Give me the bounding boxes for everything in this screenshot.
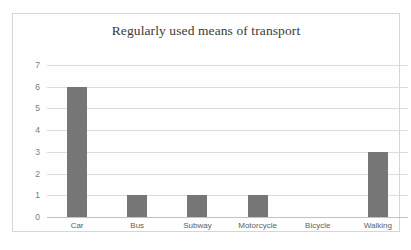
- y-axis-tick-label: 5: [35, 104, 40, 113]
- bar[interactable]: [187, 195, 207, 217]
- y-axis-tick-label: 0: [35, 213, 40, 222]
- y-axis-tick-label: 3: [35, 148, 40, 157]
- bar-slot: Bicycle: [288, 65, 348, 217]
- bar[interactable]: [368, 152, 388, 217]
- x-axis-category-label: Bus: [130, 222, 144, 230]
- y-axis-tick-label: 7: [35, 61, 40, 70]
- chart-container: Regularly used means of transport 012345…: [12, 13, 400, 232]
- bar[interactable]: [67, 87, 87, 217]
- x-axis-category-label: Motorcycle: [238, 222, 277, 230]
- y-axis-tick-label: 6: [35, 82, 40, 91]
- bar[interactable]: [248, 195, 268, 217]
- chart-title: Regularly used means of transport: [13, 23, 399, 39]
- x-axis-category-label: Bicycle: [305, 222, 330, 230]
- x-axis-category-label: Subway: [183, 222, 211, 230]
- y-axis-tick-label: 4: [35, 126, 40, 135]
- bar-slot: Bus: [107, 65, 167, 217]
- plot-area: 01234567 CarBusSubwayMotorcycleBicycleWa…: [47, 65, 408, 217]
- y-axis-tick-label: 2: [35, 169, 40, 178]
- bar[interactable]: [127, 195, 147, 217]
- x-axis-category-label: Car: [71, 222, 84, 230]
- bars-group: CarBusSubwayMotorcycleBicycleWalking: [47, 65, 408, 217]
- bar-slot: Walking: [348, 65, 408, 217]
- bar-slot: Subway: [167, 65, 227, 217]
- axis-baseline: [47, 217, 408, 218]
- y-axis-tick-label: 1: [35, 191, 40, 200]
- bar-slot: Motorcycle: [228, 65, 288, 217]
- x-axis-category-label: Walking: [364, 222, 392, 230]
- bar-slot: Car: [47, 65, 107, 217]
